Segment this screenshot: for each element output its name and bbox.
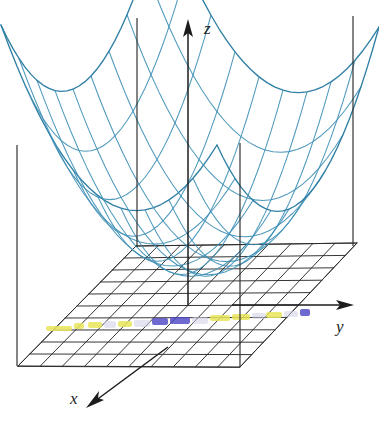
paraboloid-mesh-curve — [127, 15, 343, 201]
highlighter-segment — [252, 313, 266, 319]
paraboloid-mesh-curve — [145, 0, 361, 152]
paraboloid-mesh-curve — [37, 80, 253, 266]
highlighter-segment — [284, 311, 298, 317]
highlighter-segment — [134, 320, 150, 327]
paraboloid-figure: z y x — [0, 0, 379, 437]
highlighter-segment — [152, 318, 168, 325]
highlighter-segment — [300, 309, 310, 316]
highlighter-segment — [266, 312, 282, 318]
highlighter-segment — [192, 317, 208, 324]
highlighter-segment — [104, 321, 116, 328]
paraboloid-mesh-curve — [49, 15, 211, 199]
highlighter-segment — [232, 314, 250, 320]
x-axis-arrowhead — [86, 391, 104, 408]
paraboloid-mesh-curve — [109, 51, 325, 237]
highlighter-segment — [210, 315, 230, 321]
figure-canvas: z y x — [0, 0, 379, 437]
paraboloid-mesh — [1, 0, 379, 276]
y-axis-label: y — [334, 317, 344, 336]
highlighter-segment — [170, 317, 190, 324]
x-axis-label: x — [69, 389, 78, 408]
paraboloid-mesh-curve — [25, 0, 187, 151]
highlighter-segment — [46, 326, 72, 331]
highlighter-segment — [88, 322, 102, 328]
paraboloid-edge-curve — [1, 25, 217, 211]
highlighter-segment — [118, 321, 132, 327]
z-axis-label: z — [203, 19, 211, 38]
highlighter-segment — [74, 323, 84, 329]
